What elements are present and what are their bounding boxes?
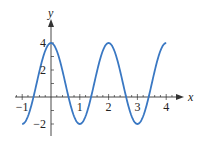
- y-axis-arrow-icon: [48, 19, 54, 27]
- x-tick-label: 1: [77, 100, 83, 114]
- x-tick-label: −1: [16, 100, 29, 114]
- y-tick-label: 2: [40, 63, 46, 77]
- y-tick-label: −2: [33, 117, 46, 131]
- tick-labels: −1123442−2xy: [16, 6, 194, 131]
- x-tick-label: 2: [106, 100, 112, 114]
- x-tick-label: 3: [134, 100, 140, 114]
- y-axis-label: y: [47, 6, 54, 20]
- y-tick-label: 4: [40, 36, 46, 50]
- x-tick-label: 4: [163, 100, 169, 114]
- x-axis-label: x: [187, 90, 194, 104]
- x-axis-arrow-icon: [176, 94, 184, 100]
- function-curve: [22, 43, 166, 124]
- chart: −1123442−2xy: [0, 0, 198, 141]
